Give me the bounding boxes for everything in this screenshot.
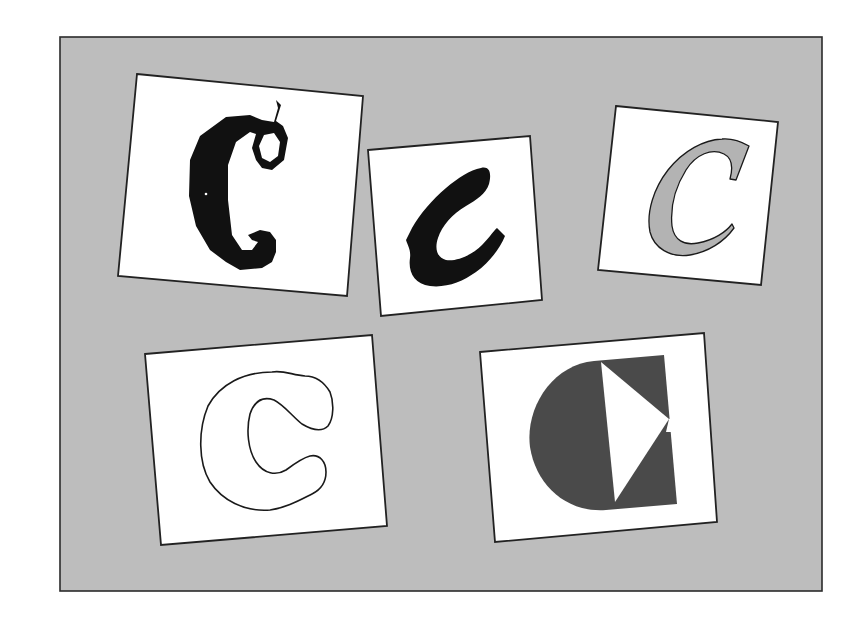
card-italic-serif-c [598,106,778,285]
card-brush-c [368,136,542,316]
card-2-paper [368,136,542,316]
card-blackletter-c [118,74,363,296]
card-3-paper [598,106,778,285]
card-geometric-c [480,333,717,542]
letter-c-variations-figure [0,0,866,620]
card-4-paper [145,335,387,545]
card-bubble-outline-c [145,335,387,545]
